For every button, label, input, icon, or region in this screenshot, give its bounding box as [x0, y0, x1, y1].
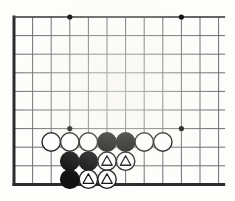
stone-white-marked[interactable] — [98, 152, 116, 170]
star-point — [67, 14, 72, 19]
stone-disc — [42, 133, 60, 151]
star-point — [67, 126, 72, 131]
stone-black[interactable] — [116, 133, 134, 151]
stone-disc — [61, 133, 79, 151]
stone-disc — [98, 133, 116, 151]
stone-black[interactable] — [61, 170, 79, 188]
stone-white[interactable] — [79, 133, 97, 151]
stone-disc — [79, 152, 97, 170]
stone-white[interactable] — [42, 133, 60, 151]
star-point — [179, 14, 184, 19]
stone-disc — [135, 133, 153, 151]
stone-disc — [154, 133, 172, 151]
go-diagram — [0, 0, 235, 201]
star-point — [179, 126, 184, 131]
stone-white[interactable] — [61, 133, 79, 151]
stone-disc — [98, 170, 116, 188]
stone-white[interactable] — [154, 133, 172, 151]
stone-disc — [98, 152, 116, 170]
stone-disc — [116, 152, 134, 170]
stone-disc — [79, 170, 97, 188]
stone-disc — [61, 152, 79, 170]
stone-disc — [116, 133, 134, 151]
stone-black[interactable] — [61, 152, 79, 170]
stone-disc — [79, 133, 97, 151]
go-board — [0, 0, 235, 201]
stone-white[interactable] — [135, 133, 153, 151]
stone-black[interactable] — [98, 133, 116, 151]
stones-layer — [42, 133, 172, 189]
stone-disc — [61, 170, 79, 188]
stone-white-marked[interactable] — [79, 170, 97, 188]
stone-white-marked[interactable] — [116, 152, 134, 170]
stone-black[interactable] — [79, 152, 97, 170]
stone-white-marked[interactable] — [98, 170, 116, 188]
